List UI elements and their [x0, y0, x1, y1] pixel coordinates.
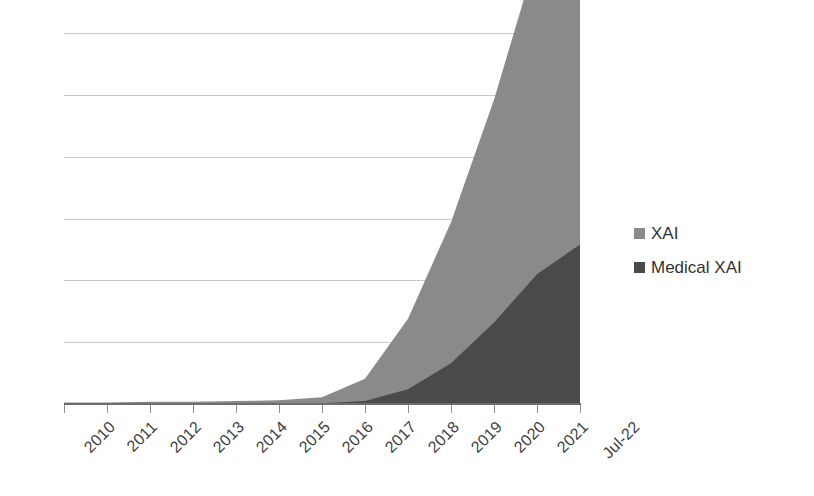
x-axis-label: 2015	[296, 418, 334, 456]
x-axis-label: 2018	[425, 418, 463, 456]
chart-legend: XAI Medical XAI	[634, 216, 804, 284]
x-axis-label: 2016	[339, 418, 377, 456]
legend-swatch-icon-xai	[634, 228, 645, 239]
x-axis-tick	[193, 405, 194, 413]
area-chart: 2010201120122013201420152016201720182019…	[0, 0, 814, 496]
plot-area	[64, 33, 580, 404]
x-axis-label: 2012	[167, 418, 205, 456]
x-axis-tick	[580, 405, 581, 413]
x-axis-tick	[451, 405, 452, 413]
x-axis-label: 2020	[511, 418, 549, 456]
x-axis-tick	[107, 405, 108, 413]
x-axis-ticks	[64, 405, 581, 413]
x-axis-tick	[365, 405, 366, 413]
x-axis-label: 2019	[468, 418, 506, 456]
x-axis-label: 2017	[382, 418, 420, 456]
x-axis-label: 2011	[123, 418, 161, 456]
x-axis-tick	[150, 405, 151, 413]
legend-item-medical-xai[interactable]: Medical XAI	[634, 250, 804, 284]
legend-label-medical-xai: Medical XAI	[651, 259, 742, 276]
x-axis-label: Jul-22	[599, 418, 643, 462]
x-axis-tick	[408, 405, 409, 413]
legend-swatch-icon-medical-xai	[634, 262, 645, 273]
x-axis-tick	[279, 405, 280, 413]
x-axis-tick	[236, 405, 237, 413]
legend-label-xai: XAI	[651, 225, 678, 242]
x-axis-tick	[537, 405, 538, 413]
x-axis-tick	[494, 405, 495, 413]
legend-item-xai[interactable]: XAI	[634, 216, 804, 250]
x-axis-label: 2013	[210, 418, 248, 456]
x-axis-label: 2010	[81, 418, 119, 456]
x-axis-label: 2021	[554, 418, 592, 456]
x-axis-label: 2014	[253, 418, 291, 456]
x-axis-tick	[64, 405, 65, 413]
series-layer	[64, 33, 580, 404]
x-axis-tick	[322, 405, 323, 413]
